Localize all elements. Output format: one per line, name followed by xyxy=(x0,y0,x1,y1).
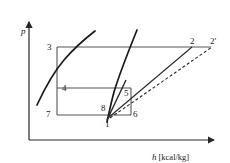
compression-line-1-2 xyxy=(108,47,192,118)
y-axis-label: p xyxy=(21,27,26,36)
state-point-label-2-prime: 2′ xyxy=(210,37,216,46)
x-axis-unit: [kcal/kg] xyxy=(159,152,190,162)
state-point-label-5: 5 xyxy=(124,89,129,98)
x-axis-label: h[kcal/kg] xyxy=(152,147,189,163)
state-point-label-8: 8 xyxy=(101,104,106,113)
state-point-label-1: 1 xyxy=(105,120,110,129)
state-point-label-3: 3 xyxy=(47,43,52,52)
diagram-canvas xyxy=(0,0,230,163)
state-point-label-6: 6 xyxy=(133,110,138,119)
saturated-liquid-curve xyxy=(37,31,95,105)
state-point-label-7: 7 xyxy=(46,110,51,119)
ph-diagram-figure: p h[kcal/kg] 3 4 7 8 1 5 6 2 2′ xyxy=(0,0,230,163)
state-point-label-2: 2 xyxy=(190,37,195,46)
state-point-label-4: 4 xyxy=(62,84,67,93)
x-axis-symbol: h xyxy=(152,152,157,162)
